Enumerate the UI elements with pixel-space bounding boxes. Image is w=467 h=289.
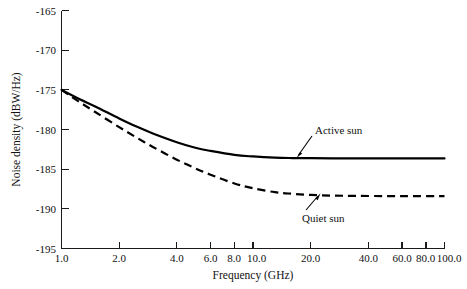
x-tick-label: 1.0 bbox=[55, 252, 69, 264]
x-tick-label: 80.0 bbox=[416, 252, 436, 264]
y-tick-label: -190 bbox=[36, 203, 57, 215]
x-tick-label: 60.0 bbox=[392, 252, 412, 264]
x-tick-label: 10.0 bbox=[247, 252, 267, 264]
y-axis-ticks bbox=[62, 11, 69, 249]
x-tick-label: 6.0 bbox=[204, 252, 218, 264]
chart-canvas: -165 -170 -175 -180 -185 -190 -195 1.0 2… bbox=[0, 0, 467, 289]
y-tick-label: -165 bbox=[36, 5, 57, 17]
x-axis-title: Frequency (GHz) bbox=[213, 269, 294, 282]
chart-axes bbox=[62, 11, 445, 249]
x-tick-label: 20.0 bbox=[301, 252, 321, 264]
x-axis-ticks bbox=[62, 242, 445, 249]
quiet-sun-label: Quiet sun bbox=[302, 212, 345, 224]
active-sun-label: Active sun bbox=[315, 124, 363, 136]
active-sun-curve bbox=[62, 90, 445, 159]
y-tick-label: -185 bbox=[36, 163, 57, 175]
y-axis-title: Noise density (dBW/Hz) bbox=[10, 72, 23, 187]
y-tick-label: -175 bbox=[36, 84, 57, 96]
x-tick-label: 4.0 bbox=[170, 252, 184, 264]
x-tick-label: 8.0 bbox=[227, 252, 241, 264]
quiet-sun-annotation: Quiet sun bbox=[302, 193, 345, 224]
x-tick-label: 2.0 bbox=[112, 252, 126, 264]
x-axis-tick-labels: 1.0 2.0 4.0 6.0 8.0 10.0 20.0 40.0 60.0 … bbox=[55, 252, 462, 264]
x-tick-label: 40.0 bbox=[359, 252, 379, 264]
y-tick-label: -170 bbox=[36, 44, 57, 56]
y-tick-label: -180 bbox=[36, 124, 57, 136]
active-sun-annotation: Active sun bbox=[297, 124, 363, 158]
y-axis-tick-labels: -165 -170 -175 -180 -185 -190 -195 bbox=[36, 5, 57, 255]
noise-density-chart: -165 -170 -175 -180 -185 -190 -195 1.0 2… bbox=[0, 0, 467, 289]
quiet-sun-curve bbox=[62, 90, 445, 196]
x-tick-label: 100.0 bbox=[437, 252, 462, 264]
y-tick-label: -195 bbox=[36, 243, 57, 255]
